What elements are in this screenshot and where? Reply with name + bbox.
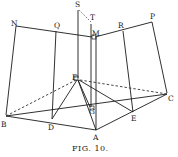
label-Q: Q <box>54 21 60 30</box>
label-A: A <box>92 133 99 142</box>
label-S: S <box>75 0 80 9</box>
line-FC <box>80 80 167 94</box>
line-BC <box>6 94 167 116</box>
label-N: N <box>11 19 18 28</box>
line-QD <box>52 31 56 119</box>
label-F: F <box>72 73 77 82</box>
label-G: G <box>89 107 95 116</box>
label-P: P <box>150 12 155 21</box>
label-C: C <box>168 94 174 103</box>
line-NB <box>6 26 16 115</box>
label-T: T <box>90 13 95 22</box>
line-FA <box>78 80 96 130</box>
line-FE <box>79 80 133 112</box>
line-PC <box>152 22 167 93</box>
label-E: E <box>131 114 136 123</box>
line-FD <box>52 80 77 119</box>
label-M: M <box>92 29 100 38</box>
label-D: D <box>48 123 54 132</box>
label-R: R <box>118 21 124 30</box>
line-FG <box>78 80 90 107</box>
label-B: B <box>1 120 7 129</box>
geometric-figure: S T N Q M R P F G C B D E A FIG. 10. <box>0 0 178 157</box>
figure-caption: FIG. 10. <box>72 144 109 153</box>
